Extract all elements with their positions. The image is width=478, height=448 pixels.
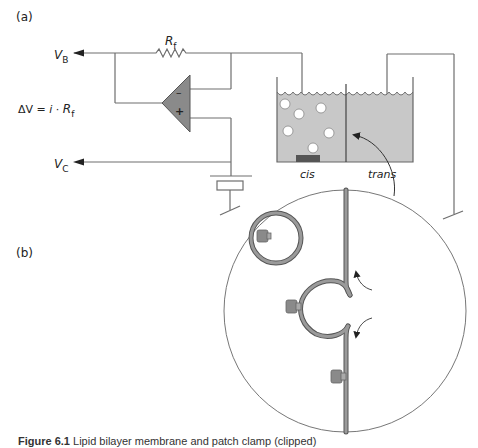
panel-b-label: (b) (16, 246, 33, 260)
magnetic-stirrer (296, 155, 320, 162)
panel-a-label: (a) (16, 10, 33, 24)
vb-arrow-icon (73, 50, 84, 57)
trans-label: trans (368, 168, 397, 181)
opamp-minus: – (176, 86, 182, 99)
bath-chamber (277, 77, 413, 162)
vc-arrow-icon (73, 159, 84, 166)
battery-cell (217, 181, 243, 190)
figure-caption: Figure 6.1 Lipid bilayer membrane and pa… (18, 434, 316, 448)
resistor-rf-icon (153, 49, 232, 57)
opamp-plus: + (175, 105, 184, 118)
vb-label: VB (54, 48, 68, 65)
vc-label: VC (54, 157, 69, 174)
equation-label: ΔV = i · Rf (18, 102, 75, 119)
protein-membrane (331, 370, 342, 383)
cis-label: cis (300, 168, 315, 181)
op-amp: – + (162, 75, 190, 132)
protein-fusing (286, 300, 297, 313)
ground-right-icon (443, 211, 463, 219)
protein-vesicle (257, 230, 268, 242)
